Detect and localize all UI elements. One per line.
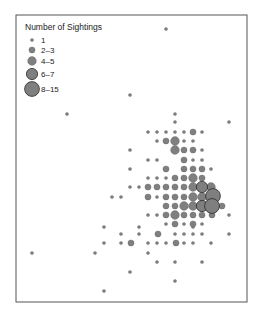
data-point <box>219 203 225 209</box>
legend-label: 6–7 <box>41 70 55 79</box>
data-point <box>102 225 105 228</box>
data-point <box>181 157 187 163</box>
data-point <box>181 166 187 172</box>
legend-title: Number of Sightings <box>25 22 102 32</box>
data-point <box>128 270 131 273</box>
data-point <box>199 212 205 218</box>
data-point <box>173 240 179 246</box>
data-point <box>128 167 131 170</box>
data-point <box>119 195 122 198</box>
legend: Number of Sightings 12–34–56–78–15 <box>25 22 102 96</box>
data-point <box>164 176 167 179</box>
data-point <box>155 130 158 133</box>
data-point <box>190 129 196 135</box>
data-point <box>155 241 158 244</box>
data-point <box>182 241 185 244</box>
data-point <box>199 175 205 181</box>
data-point <box>171 146 180 155</box>
data-point <box>146 130 149 133</box>
data-point <box>200 260 203 263</box>
data-point <box>155 158 158 161</box>
data-points <box>30 27 230 292</box>
data-point <box>209 241 212 244</box>
data-point <box>181 184 187 190</box>
data-point <box>145 184 151 190</box>
data-point <box>200 148 203 151</box>
data-point <box>163 212 169 218</box>
data-point <box>102 241 105 244</box>
data-point <box>155 213 158 216</box>
data-point <box>163 203 169 209</box>
data-point <box>146 176 149 179</box>
data-point <box>181 175 187 181</box>
data-point <box>164 27 167 30</box>
legend-items: 12–34–56–78–15 <box>25 36 60 96</box>
data-point <box>171 137 180 146</box>
data-point <box>190 212 196 218</box>
data-point <box>182 139 185 142</box>
data-point <box>173 120 176 123</box>
data-point <box>200 232 203 235</box>
data-point <box>205 199 220 214</box>
data-point <box>200 222 203 225</box>
data-point <box>227 213 230 216</box>
data-point <box>128 185 131 188</box>
data-point <box>163 138 169 144</box>
data-point <box>227 120 230 123</box>
legend-label: 8–15 <box>41 85 59 94</box>
data-point <box>155 231 161 237</box>
data-point <box>191 158 194 161</box>
data-point <box>173 232 176 235</box>
data-point <box>181 212 187 218</box>
data-point <box>180 202 189 211</box>
data-point <box>164 241 167 244</box>
legend-swatch-icon <box>25 82 40 97</box>
data-point <box>172 184 178 190</box>
data-point <box>181 194 187 200</box>
data-point <box>191 232 194 235</box>
data-point <box>128 93 131 96</box>
data-point <box>164 130 167 133</box>
data-point <box>155 176 158 179</box>
data-point <box>199 166 205 172</box>
data-point <box>182 232 185 235</box>
data-point <box>163 166 169 172</box>
sightings-bubble-map: Number of Sightings 12–34–56–78–15 <box>0 0 262 316</box>
data-point <box>172 203 178 209</box>
legend-swatch-icon <box>26 68 37 79</box>
data-point <box>30 251 33 254</box>
data-point <box>154 184 160 190</box>
data-point <box>137 185 140 188</box>
data-point <box>102 289 105 292</box>
data-point <box>189 193 198 202</box>
data-point <box>137 225 140 228</box>
data-point <box>119 232 122 235</box>
data-point <box>146 213 149 216</box>
data-point <box>173 130 176 133</box>
legend-swatch-icon <box>29 47 35 53</box>
data-point <box>173 112 176 115</box>
data-point <box>172 175 178 181</box>
data-point <box>145 194 151 200</box>
data-point <box>209 167 212 170</box>
data-point <box>173 279 176 282</box>
data-point <box>164 222 167 225</box>
data-point <box>190 166 196 172</box>
data-point <box>128 148 131 151</box>
data-point <box>172 221 178 227</box>
data-point <box>146 251 149 254</box>
data-point <box>137 232 140 235</box>
data-point <box>110 195 113 198</box>
data-point <box>189 174 198 183</box>
data-point <box>155 195 158 198</box>
data-point <box>163 194 169 200</box>
legend-swatch-icon <box>30 38 33 41</box>
legend-label: 1 <box>41 36 46 45</box>
data-point <box>93 251 96 254</box>
data-point <box>182 130 185 133</box>
data-point <box>155 139 158 142</box>
data-point <box>146 241 149 244</box>
data-point <box>172 194 178 200</box>
data-point <box>163 184 169 190</box>
legend-swatch-icon <box>28 57 37 66</box>
